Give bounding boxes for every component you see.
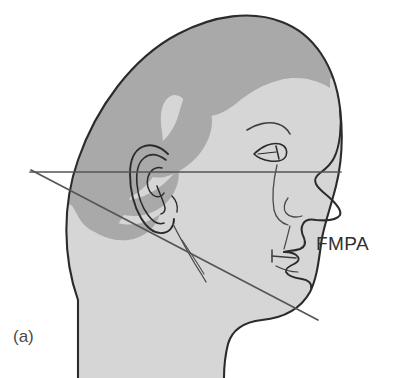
panel-label: (a) [13,327,34,347]
head-profile-diagram [0,0,396,378]
fmpa-annotation-label: FMPA [316,233,369,255]
figure-panel-a: FMPA (a) [0,0,396,378]
